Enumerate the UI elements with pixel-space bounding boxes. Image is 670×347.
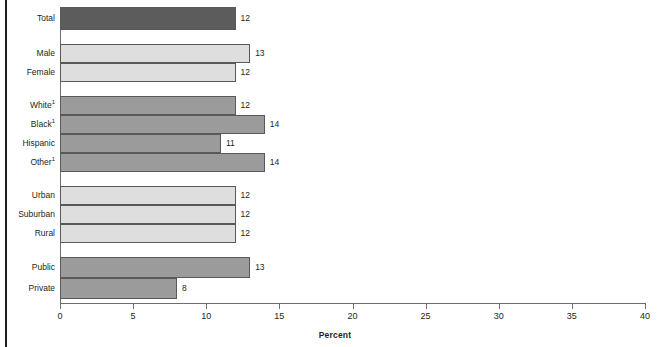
- bar-category-label: Hispanic: [0, 138, 55, 148]
- bar-value-label: 12: [241, 209, 250, 219]
- bar-category-label: Male: [0, 48, 55, 58]
- axis-tick-label: 5: [113, 311, 153, 322]
- bar-value-label: 14: [270, 119, 279, 129]
- axis-tick-mark: [499, 303, 500, 309]
- axis-tick-mark: [572, 303, 573, 309]
- axis-tick-label: 0: [40, 311, 80, 322]
- bar: [60, 153, 265, 172]
- bar-value-label: 12: [241, 228, 250, 238]
- axis-tick-mark: [279, 303, 280, 309]
- axis-tick-mark: [645, 303, 646, 309]
- axis-tick-label: 35: [552, 311, 592, 322]
- bar-category-label: Total: [0, 13, 55, 23]
- axis-tick-label: 10: [186, 311, 226, 322]
- bar: [60, 63, 236, 82]
- axis-tick-label: 25: [406, 311, 446, 322]
- bar-value-label: 12: [241, 100, 250, 110]
- bar: [60, 257, 250, 278]
- axis-tick-label: 30: [479, 311, 519, 322]
- bar-category-label: White1: [0, 100, 55, 110]
- bar-value-label: 8: [182, 283, 187, 293]
- bar-category-label: Other1: [0, 157, 55, 167]
- bar: [60, 186, 236, 205]
- bar: [60, 115, 265, 134]
- bar-chart-figure: Total12Male13Female12White112Black114His…: [0, 0, 670, 347]
- bar: [60, 224, 236, 243]
- bar-category-label: Public: [0, 262, 55, 272]
- bar: [60, 205, 236, 224]
- bar-value-label: 13: [255, 48, 264, 58]
- bar-value-label: 12: [241, 67, 250, 77]
- bar-value-label: 13: [255, 262, 264, 272]
- bar-category-label: Female: [0, 67, 55, 77]
- axis-tick-mark: [426, 303, 427, 309]
- bar-category-label: Black1: [0, 119, 55, 129]
- bar-category-label: Rural: [0, 228, 55, 238]
- bar-value-label: 14: [270, 157, 279, 167]
- bar-category-label: Private: [0, 283, 55, 293]
- axis-tick-label: 20: [333, 311, 373, 322]
- bar-value-label: 12: [241, 190, 250, 200]
- axis-tick-label: 15: [259, 311, 299, 322]
- bar-category-label: Suburban: [0, 209, 55, 219]
- bar: [60, 96, 236, 115]
- axis-tick-mark: [60, 303, 61, 309]
- axis-tick-label: 40: [625, 311, 665, 322]
- bar-value-label: 11: [226, 138, 235, 148]
- axis-tick-mark: [353, 303, 354, 309]
- bar: [60, 278, 177, 299]
- bar-category-label: Urban: [0, 190, 55, 200]
- axis-tick-mark: [206, 303, 207, 309]
- bar: [60, 134, 221, 153]
- bar: [60, 7, 236, 30]
- axis-title: Percent: [0, 330, 670, 340]
- bar-value-label: 12: [241, 13, 250, 23]
- bar: [60, 44, 250, 63]
- axis-tick-mark: [133, 303, 134, 309]
- plot-area: Total12Male13Female12White112Black114His…: [0, 0, 670, 347]
